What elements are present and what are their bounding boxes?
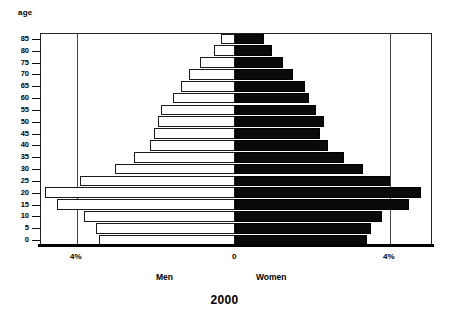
bar-women	[235, 81, 305, 92]
bar-women	[235, 69, 293, 80]
x-tick-label-zero: 0	[232, 252, 236, 262]
pyramid-bar-row	[0, 152, 449, 163]
pyramid-bar-row	[0, 93, 449, 104]
pyramid-bar-row	[0, 164, 449, 175]
bar-men	[80, 176, 235, 187]
bar-women	[235, 45, 272, 56]
x-tick-label-right-4pct: 4%	[383, 252, 395, 262]
bar-men	[214, 45, 235, 56]
bar-women	[235, 34, 264, 45]
legend-label-men: Men	[156, 272, 173, 283]
pyramid-bar-row	[0, 223, 449, 234]
bar-women	[235, 164, 363, 175]
bar-women	[235, 140, 328, 151]
bar-men	[154, 128, 235, 139]
pyramid-bar-row	[0, 128, 449, 139]
pyramid-bar-row	[0, 140, 449, 151]
pyramid-bar-row	[0, 45, 449, 56]
bar-men	[57, 199, 235, 210]
pyramid-bar-row	[0, 69, 449, 80]
bar-women	[235, 187, 421, 198]
bar-men	[189, 69, 236, 80]
bar-women	[235, 211, 382, 222]
pyramid-bar-row	[0, 105, 449, 116]
x-axis-baseline	[38, 244, 434, 247]
bar-women	[235, 93, 309, 104]
pyramid-bar-row	[0, 176, 449, 187]
bar-women	[235, 176, 390, 187]
bar-men	[200, 57, 235, 68]
bar-men	[150, 140, 235, 151]
chart-title-year: 2000	[0, 293, 449, 307]
bar-men	[84, 211, 235, 222]
bar-men	[173, 93, 235, 104]
bar-women	[235, 223, 371, 234]
bar-women	[235, 105, 316, 116]
y-axis-title: age	[18, 8, 32, 18]
pyramid-bar-row	[0, 116, 449, 127]
pyramid-bar-row	[0, 57, 449, 68]
bar-women	[235, 128, 320, 139]
bar-women	[235, 116, 324, 127]
bar-men	[181, 81, 235, 92]
bar-men	[134, 152, 235, 163]
bar-women	[235, 199, 409, 210]
bar-men	[158, 116, 236, 127]
bar-men	[115, 164, 235, 175]
pyramid-bar-row	[0, 211, 449, 222]
x-tick-label-left-4pct: 4%	[70, 252, 82, 262]
bars-layer	[0, 33, 449, 246]
bar-women	[235, 57, 283, 68]
bar-men	[96, 223, 236, 234]
pyramid-bar-row	[0, 187, 449, 198]
pyramid-bar-row	[0, 199, 449, 210]
bar-women	[235, 152, 344, 163]
bar-men	[45, 187, 235, 198]
bar-men	[161, 105, 235, 116]
legend-label-women: Women	[256, 272, 287, 283]
pyramid-bar-row	[0, 81, 449, 92]
pyramid-bar-row	[0, 34, 449, 45]
population-pyramid-figure: age 8580757065605550454035302520151050 4…	[0, 0, 449, 314]
bar-men	[221, 34, 235, 45]
